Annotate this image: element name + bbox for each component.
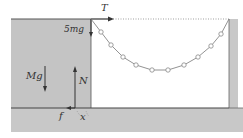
friction-label: f <box>59 110 63 121</box>
diagram-svg <box>0 0 243 138</box>
physics-diagram: T 5mg Mg N f x <box>0 0 243 138</box>
floor <box>11 108 243 132</box>
chain-weight-label: 5mg <box>64 24 84 34</box>
distance-label: x <box>80 111 86 122</box>
right-wall <box>229 19 238 108</box>
tension-label: T <box>101 2 108 13</box>
normal-label: N <box>79 75 88 86</box>
block-weight-label: Mg <box>26 70 43 81</box>
